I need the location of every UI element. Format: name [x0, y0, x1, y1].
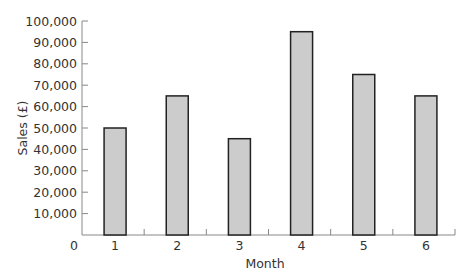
bar-month-5 — [353, 75, 375, 236]
bars — [104, 32, 437, 235]
bar-month-2 — [166, 96, 188, 235]
bar-chart: 010,00020,00030,00040,00050,00060,00070,… — [0, 0, 468, 278]
bar-month-6 — [415, 96, 437, 235]
y-tick-label: 90,000 — [33, 35, 77, 50]
x-axis: 123456 — [82, 229, 455, 253]
y-tick-label: 10,000 — [33, 206, 77, 221]
x-tick-label: 2 — [173, 238, 181, 253]
y-tick-label: 0 — [70, 238, 78, 253]
x-tick-label: 6 — [422, 238, 430, 253]
y-tick-label: 30,000 — [33, 163, 77, 178]
y-tick-label: 60,000 — [33, 99, 77, 114]
y-axis-title: Sales (£) — [15, 101, 30, 156]
y-tick-label: 50,000 — [33, 121, 77, 136]
x-axis-title: Month — [245, 256, 284, 271]
bar-month-4 — [291, 32, 313, 235]
y-tick-label: 70,000 — [33, 78, 77, 93]
x-tick-label: 3 — [235, 238, 243, 253]
y-tick-label: 80,000 — [33, 56, 77, 71]
bar-month-1 — [104, 128, 126, 235]
y-tick-label: 100,000 — [25, 14, 77, 29]
x-tick-label: 4 — [298, 238, 306, 253]
y-tick-label: 40,000 — [33, 142, 77, 157]
bar-month-3 — [228, 139, 250, 235]
x-tick-label: 5 — [360, 238, 368, 253]
y-tick-label: 20,000 — [33, 185, 77, 200]
y-axis: 010,00020,00030,00040,00050,00060,00070,… — [25, 14, 88, 254]
x-tick-label: 1 — [111, 238, 119, 253]
